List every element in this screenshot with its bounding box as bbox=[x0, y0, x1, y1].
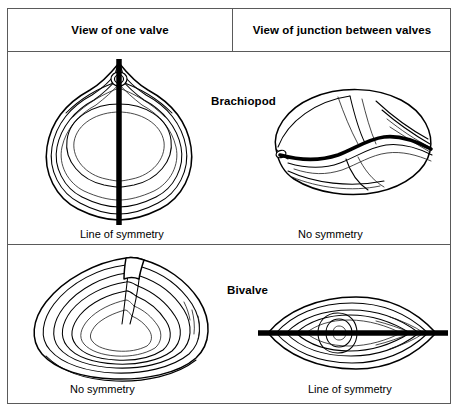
comparison-table: View of one valve View of junction betwe… bbox=[7, 8, 451, 404]
illustration-bivalve-one-valve bbox=[26, 254, 221, 384]
shell-symmetry-figure: View of one valve View of junction betwe… bbox=[0, 0, 460, 412]
caption-bivalve-junction: Line of symmetry bbox=[308, 383, 392, 395]
caption-brachiopod-junction: No symmetry bbox=[298, 228, 363, 240]
caption-bivalve-one-valve: No symmetry bbox=[70, 383, 135, 395]
caption-brachiopod-one-valve: Line of symmetry bbox=[80, 228, 164, 240]
row-separator-rule bbox=[8, 244, 450, 245]
header-separator-rule bbox=[8, 51, 450, 52]
column-header-junction: View of junction between valves bbox=[232, 9, 452, 51]
illustration-bivalve-junction bbox=[256, 291, 451, 376]
illustration-brachiopod-one-valve bbox=[24, 57, 214, 227]
column-header-one-valve: View of one valve bbox=[8, 9, 232, 51]
illustration-brachiopod-junction bbox=[258, 87, 443, 202]
